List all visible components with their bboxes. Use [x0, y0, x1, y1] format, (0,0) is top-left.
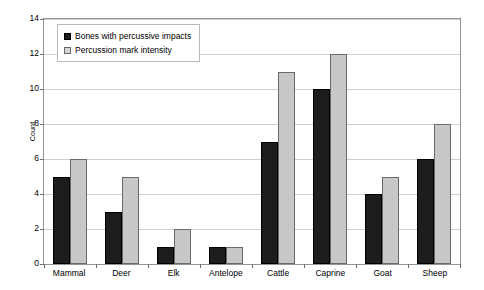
bar [313, 89, 330, 264]
legend-item: Percussion mark intensity [64, 43, 191, 57]
y-axis-tickmark [40, 194, 44, 195]
bar [382, 177, 399, 265]
y-axis-tick-label: 0 [0, 258, 43, 268]
bar [53, 177, 70, 265]
outlined-gray-square-icon [64, 47, 71, 54]
y-axis-tick-label: 4 [0, 188, 43, 198]
bar-group [200, 19, 252, 264]
bar [105, 212, 122, 265]
y-axis-tick-label: 6 [0, 153, 43, 163]
bar [261, 142, 278, 265]
x-axis-tick-label: Caprine [304, 268, 356, 278]
y-axis-tickmark [40, 19, 44, 20]
bar [330, 54, 347, 264]
y-axis-tick-label: 12 [0, 48, 43, 58]
bar-chart: Count 02468101214 MammalDeerElkAntelopeC… [0, 0, 484, 290]
filled-black-square-icon [64, 33, 71, 40]
bar [70, 159, 87, 264]
x-axis-tick-label: Sheep [409, 268, 461, 278]
bar [209, 247, 226, 265]
y-axis-tick-label: 2 [0, 223, 43, 233]
y-axis-tick-label: 8 [0, 118, 43, 128]
bar [226, 247, 243, 265]
y-axis-tickmark [40, 89, 44, 90]
x-axis-tick-labels: MammalDeerElkAntelopeCattleCaprineGoatSh… [43, 268, 461, 278]
bar-group [356, 19, 408, 264]
bar [278, 72, 295, 265]
x-axis-tick-label: Cattle [252, 268, 304, 278]
bar [122, 177, 139, 265]
bar-group [408, 19, 460, 264]
y-axis-tick-labels: 02468101214 [0, 0, 43, 290]
y-axis-tick-label: 10 [0, 83, 43, 93]
legend-item-label: Percussion mark intensity [75, 45, 172, 55]
y-axis-tickmark [40, 54, 44, 55]
bar [365, 194, 382, 264]
chart-legend: Bones with percussive impactsPercussion … [57, 24, 200, 62]
y-axis-tick-label: 14 [0, 13, 43, 23]
bar [174, 229, 191, 264]
bar-group [252, 19, 304, 264]
legend-item-label: Bones with percussive impacts [75, 31, 191, 41]
x-axis-tick-label: Goat [357, 268, 409, 278]
y-axis-tickmark [40, 229, 44, 230]
x-axis-tick-label: Deer [95, 268, 147, 278]
bar [157, 247, 174, 265]
x-axis-tick-label: Elk [148, 268, 200, 278]
y-axis-tickmark [40, 159, 44, 160]
x-axis-tick-label: Mammal [43, 268, 95, 278]
bar [417, 159, 434, 264]
legend-item: Bones with percussive impacts [64, 29, 191, 43]
x-axis-tick-label: Antelope [200, 268, 252, 278]
y-axis-tickmark [40, 124, 44, 125]
bar [434, 124, 451, 264]
bar-group [304, 19, 356, 264]
